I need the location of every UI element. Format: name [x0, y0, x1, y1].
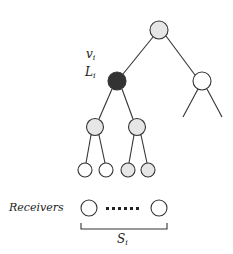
edges: [86, 36, 222, 163]
edge-right-right: [207, 89, 222, 117]
right-node: [193, 72, 211, 90]
edge-vi-l2a: [99, 89, 112, 119]
level2-node-a: [87, 119, 104, 136]
label-receivers: Receivers: [8, 201, 64, 214]
subset-bracket: [81, 223, 167, 229]
level2-node-b: [129, 119, 146, 136]
edge-vi-l2b: [122, 89, 133, 119]
edge-right-left: [183, 89, 198, 117]
edge-l2a-l3a: [86, 135, 91, 163]
tree-diagram: vi Li Receivers Si: [0, 0, 233, 254]
edge-l2b-l3d: [141, 135, 147, 163]
level3-node-b: [99, 163, 113, 177]
edge-l2a-l3b: [99, 135, 105, 163]
label-S: Si: [117, 232, 128, 247]
level3-node-c: [121, 163, 135, 177]
edge-l2b-l3c: [129, 135, 134, 163]
node-vi: [108, 72, 126, 90]
label-v: vi: [86, 47, 96, 62]
ellipsis-dots: [106, 207, 139, 210]
nodes: [78, 21, 211, 216]
root-node: [150, 21, 168, 39]
edge-root-vi: [123, 37, 153, 74]
receiver-node-last: [151, 200, 167, 216]
level3-node-a: [78, 163, 92, 177]
level3-node-d: [141, 163, 155, 177]
edge-root-right: [166, 36, 195, 75]
receiver-node-first: [81, 200, 97, 216]
label-L: Li: [84, 65, 96, 80]
